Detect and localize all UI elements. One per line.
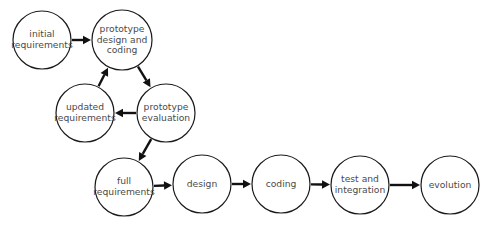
arrowhead-icon [83, 36, 91, 44]
arrowhead-icon [322, 180, 330, 188]
arrowhead-icon [164, 181, 172, 189]
edge-proto-eval-to-updated [115, 109, 136, 117]
edge-coding-to-test [311, 180, 330, 188]
edge-full-to-design [154, 181, 172, 189]
node-label: evolution [429, 179, 472, 190]
node-label: design and [97, 34, 148, 45]
node-label: integration [335, 184, 386, 195]
node-label: coding [266, 178, 297, 189]
edge-updated-to-proto-design [99, 68, 109, 87]
arrow-line [143, 139, 151, 154]
arrowhead-icon [243, 180, 251, 188]
edge-initial-to-proto-design [72, 36, 91, 44]
node-label: updated [66, 101, 104, 112]
node-label: full [117, 175, 131, 186]
node-label: requirements [11, 39, 73, 50]
edge-proto-eval-to-full [139, 139, 151, 161]
edge-test-to-evolution [390, 181, 420, 189]
node-label: coding [107, 44, 138, 55]
edge-design-to-coding [232, 180, 251, 188]
node-updated: updatedrequirements [54, 84, 116, 142]
arrow-line [138, 67, 146, 81]
node-initial: initialrequirements [11, 11, 73, 69]
prototyping-process-diagram: initialrequirementsprototypedesign andco… [0, 0, 490, 226]
arrowhead-icon [412, 181, 420, 189]
node-label: test and [341, 173, 379, 184]
node-label: prototype [100, 23, 145, 34]
node-evolution: evolution [421, 156, 479, 214]
node-test: test andintegration [331, 156, 389, 214]
arrowhead-icon [115, 109, 123, 117]
node-proto-design: prototypedesign andcoding [92, 10, 152, 70]
node-label: evaluation [142, 112, 191, 123]
arrow-line [99, 75, 105, 86]
node-coding: coding [252, 155, 310, 213]
node-label: requirements [93, 186, 155, 197]
node-full: fullrequirements [93, 158, 155, 216]
node-proto-eval: prototypeevaluation [137, 84, 195, 142]
node-label: design [187, 178, 218, 189]
node-label: prototype [144, 101, 189, 112]
node-design: design [173, 155, 231, 213]
node-label: requirements [54, 112, 116, 123]
edge-proto-design-to-proto-eval [138, 67, 151, 88]
node-label: initial [29, 28, 54, 39]
